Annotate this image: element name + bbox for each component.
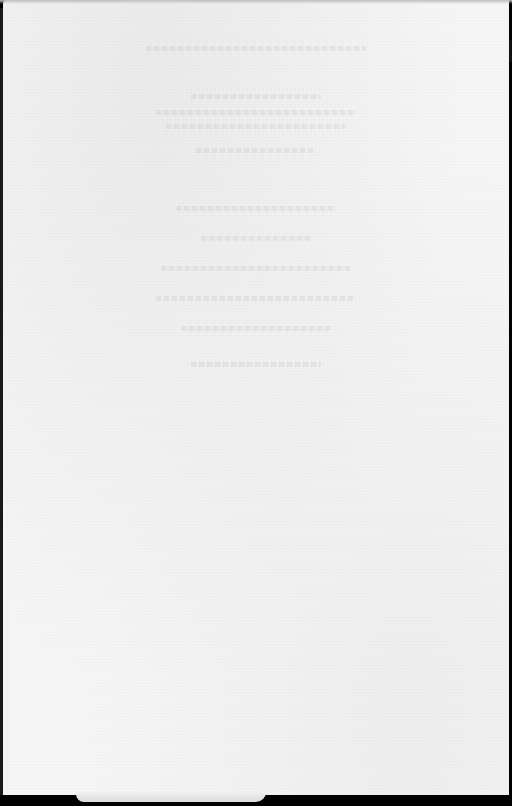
faded-text-line (161, 266, 351, 271)
faded-text-line (176, 206, 336, 211)
faded-text-line (201, 236, 311, 241)
scan-left-edge (0, 8, 3, 795)
faded-text-line (191, 94, 321, 99)
faded-text-line (146, 46, 366, 51)
page-bottom-tab (76, 792, 266, 802)
faded-text-line (191, 362, 321, 367)
faded-text-line (181, 326, 331, 331)
faded-text-line (196, 148, 316, 153)
faded-text-line (166, 124, 346, 129)
faded-text-line (156, 296, 356, 301)
scan-top-edge (0, 0, 512, 4)
faded-text-line (156, 110, 356, 115)
document-page (3, 0, 509, 795)
